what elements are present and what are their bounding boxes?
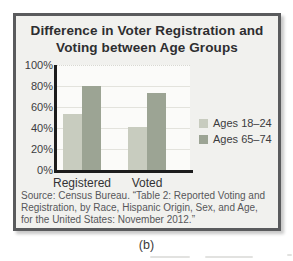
gridline — [57, 107, 190, 108]
plot-area — [57, 65, 190, 170]
chart-title: Difference in Voter Registration and Vot… — [16, 22, 278, 56]
legend-label: Ages 65–74 — [213, 133, 272, 145]
source-line-1: Source: Census Bureau. “Table 2: Reporte… — [21, 190, 273, 202]
source-line-3: for the United States: November 2012.” — [21, 214, 273, 226]
y-tick-label: 100% — [16, 59, 53, 71]
y-tick-label: 0% — [16, 164, 53, 176]
x-category-label-registered: Registered — [47, 176, 117, 190]
y-tick-label: 40% — [16, 122, 53, 134]
chart-title-line-1: Difference in Voter Registration and — [16, 22, 278, 39]
figure-card: Difference in Voter Registration and Vot… — [13, 13, 281, 231]
legend-swatch-icon — [199, 119, 208, 128]
figure-caption: (b) — [0, 238, 293, 252]
source-citation: Source: Census Bureau. “Table 2: Reporte… — [21, 190, 273, 226]
legend-label: Ages 18–24 — [213, 117, 272, 129]
y-tick-label: 80% — [16, 80, 53, 92]
cropped-text-fragment — [150, 256, 190, 258]
y-tick-label: 20% — [16, 143, 53, 155]
gridline — [57, 65, 190, 67]
x-category-label-voted: Voted — [112, 176, 182, 190]
legend-item: Ages 65–74 — [199, 131, 272, 147]
cropped-text-fragment — [205, 256, 253, 258]
legend-swatch-icon — [199, 135, 208, 144]
y-tick-label: 60% — [16, 101, 53, 113]
bar-registered-series-0 — [63, 114, 82, 170]
bar-voted-series-0 — [128, 127, 147, 170]
chart-legend: Ages 18–24Ages 65–74 — [199, 115, 272, 147]
x-axis-line — [54, 170, 193, 173]
gridline — [57, 86, 190, 87]
chart-title-line-2: Voting between Age Groups — [16, 39, 278, 56]
bar-registered-series-1 — [82, 86, 101, 170]
bar-voted-series-1 — [147, 93, 166, 170]
source-line-2: Registration, by Race, Hispanic Origin, … — [21, 202, 273, 214]
cropped-text-fragment — [287, 254, 292, 256]
legend-item: Ages 18–24 — [199, 115, 272, 131]
